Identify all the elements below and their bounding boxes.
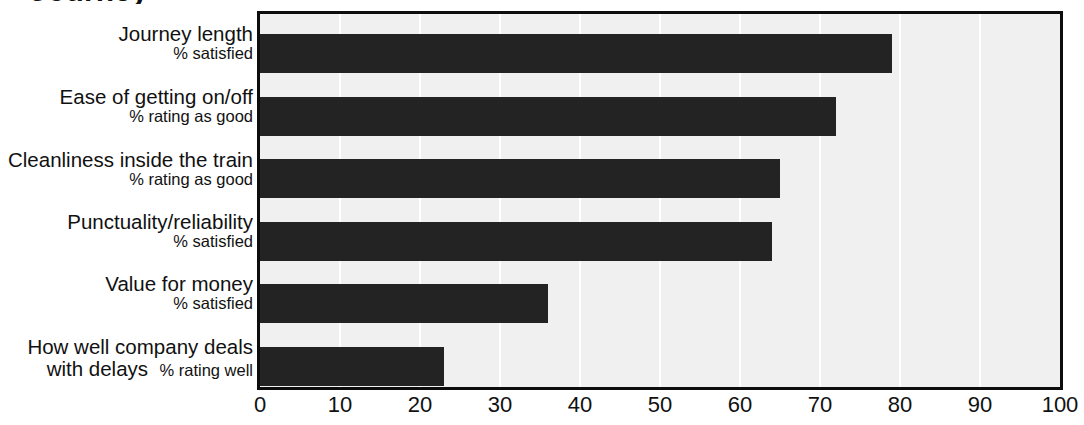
- category-label-value-for-money: Value for money % satisfied: [0, 273, 253, 312]
- category-label-how-well-company-deals-with-delays: How well company deals with delays % rat…: [0, 336, 253, 379]
- category-sublabel: % rating as good: [0, 171, 253, 188]
- category-label-ease-of-getting-on-off: Ease of getting on/off % rating as good: [0, 86, 253, 125]
- bar-2: [260, 97, 836, 136]
- bar-6: [260, 347, 444, 386]
- gridline-90: [979, 14, 981, 387]
- x-axis: 0102030405060708090100: [257, 390, 1063, 425]
- x-tick-label-90: 90: [968, 392, 992, 418]
- category-label-journey-length: Journey length % satisfied: [0, 23, 253, 62]
- plot-inner: [260, 14, 1060, 387]
- category-label-line1: Journey length: [0, 23, 253, 45]
- bar-5: [260, 284, 548, 323]
- x-tick-label-80: 80: [888, 392, 912, 418]
- category-sublabel: % satisfied: [0, 233, 253, 250]
- x-tick-label-10: 10: [328, 392, 352, 418]
- x-tick-label-0: 0: [254, 392, 266, 418]
- bar-chart-figure: Journey Journey length % satisfied Ease …: [0, 0, 1084, 425]
- category-label-line2: with delays: [47, 357, 148, 380]
- category-label-line1: How well company deals: [0, 336, 253, 358]
- category-sublabel: % rating as good: [0, 108, 253, 125]
- bar-1: [260, 34, 892, 73]
- x-tick-label-50: 50: [648, 392, 672, 418]
- gridline-80: [899, 14, 901, 387]
- category-label-line1: Cleanliness inside the train: [0, 149, 253, 171]
- bar-3: [260, 159, 780, 198]
- category-label-line1: Ease of getting on/off: [0, 86, 253, 108]
- x-tick-label-30: 30: [488, 392, 512, 418]
- x-tick-label-20: 20: [408, 392, 432, 418]
- x-tick-label-70: 70: [808, 392, 832, 418]
- x-tick-label-40: 40: [568, 392, 592, 418]
- category-label-punctuality-reliability: Punctuality/reliability % satisfied: [0, 211, 253, 250]
- category-sublabel: % rating well: [159, 361, 253, 379]
- category-label-cleanliness-inside-the-train: Cleanliness inside the train % rating as…: [0, 149, 253, 188]
- category-label-line1: Value for money: [0, 273, 253, 295]
- category-label-line1: Punctuality/reliability: [0, 211, 253, 233]
- plot-area: [257, 11, 1063, 390]
- category-sublabel: % satisfied: [0, 295, 253, 312]
- category-label-line2-row: with delays % rating well: [0, 358, 253, 380]
- x-tick-label-100: 100: [1042, 392, 1079, 418]
- chart-title: Journey: [30, 0, 148, 4]
- bar-4: [260, 222, 772, 261]
- category-label-column: Journey length % satisfied Ease of getti…: [0, 11, 253, 390]
- x-tick-label-60: 60: [728, 392, 752, 418]
- category-sublabel: % satisfied: [0, 45, 253, 62]
